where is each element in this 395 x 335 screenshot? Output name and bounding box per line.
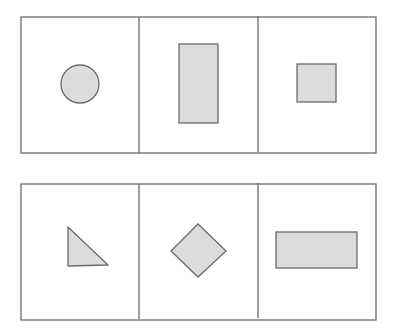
square-shape — [297, 64, 336, 102]
shape-grid-diagram — [0, 0, 395, 335]
circle-shape — [61, 65, 99, 103]
top-row — [21, 16, 376, 153]
bottom-row — [21, 183, 376, 320]
wide-rectangle-shape — [276, 232, 357, 268]
tall-rectangle-shape — [179, 44, 218, 123]
